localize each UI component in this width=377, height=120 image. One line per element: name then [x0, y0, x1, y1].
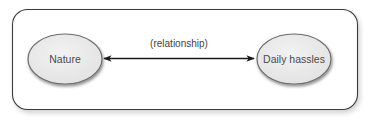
node-nature-label: Nature: [49, 53, 81, 65]
node-nature: Nature: [28, 34, 102, 84]
diagram-canvas: Nature Daily hassles (relationship): [0, 0, 377, 120]
node-daily-hassles: Daily hassles: [257, 34, 331, 84]
edge-relationship-label: (relationship): [150, 38, 208, 49]
node-daily-hassles-label: Daily hassles: [263, 53, 325, 65]
